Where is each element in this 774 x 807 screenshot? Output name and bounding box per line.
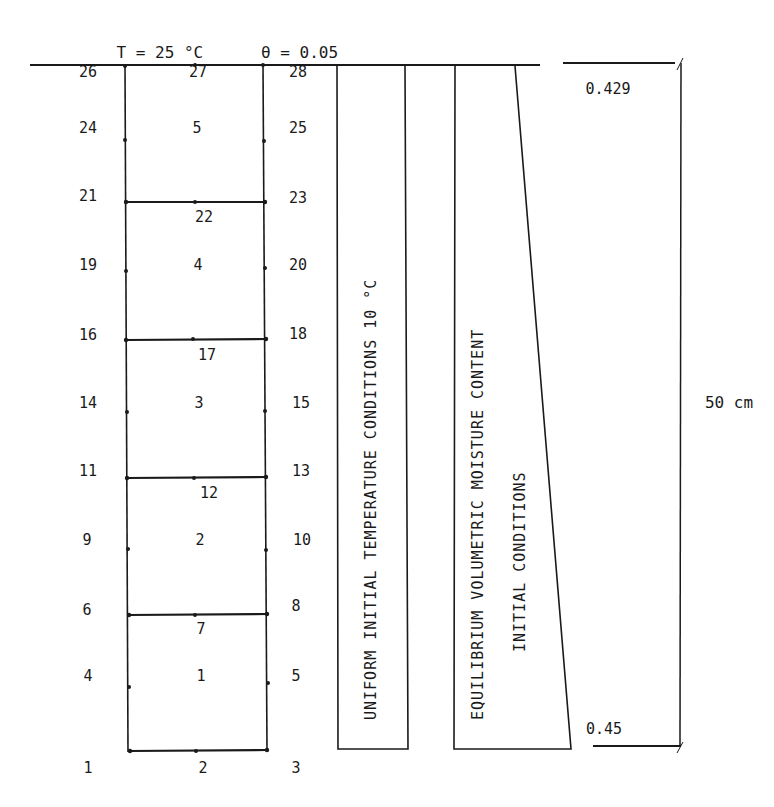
top-moisture-value: 0.429 [585, 82, 630, 97]
node-label: 3 [291, 761, 300, 776]
node-label: 25 [289, 121, 307, 136]
node-label: 10 [293, 533, 311, 548]
node-label: 21 [79, 189, 97, 204]
finite-element-diagram: T = 25 °C θ = 0.05 [0, 0, 774, 807]
node-label: 13 [292, 464, 310, 479]
element-label: 5 [192, 121, 201, 136]
bottom-moisture-value: 0.45 [586, 722, 622, 737]
mesh-left-edge [125, 65, 128, 752]
depth-dimension-label: 50 cm [705, 395, 753, 410]
element-label: 1 [196, 669, 205, 684]
node-label: 1 [83, 761, 92, 776]
node-label: 17 [198, 348, 216, 363]
node-label: 9 [82, 533, 91, 548]
element-label: 4 [193, 258, 202, 273]
node-label: 2 [198, 761, 207, 776]
node-label: 11 [79, 464, 97, 479]
node-label: 5 [291, 669, 300, 684]
node-label: 7 [196, 622, 205, 637]
node-label: 15 [292, 396, 310, 411]
node-label: 18 [289, 327, 307, 342]
moisture-condition-label: EQUILIBRIUM VOLUMETRIC MOISTURE CONTENT [469, 329, 487, 720]
node-label: 27 [189, 65, 207, 80]
moisture-initial-conditions-label: INITIAL CONDITIONS [511, 471, 529, 652]
temperature-condition-label: UNIFORM INITIAL TEMPERATURE CONDITIONS 1… [362, 279, 380, 720]
element-boundary [129, 750, 267, 751]
node-label: 16 [79, 328, 97, 343]
dimension-top-arrow [677, 58, 683, 70]
element-label: 3 [194, 396, 203, 411]
element-boundary [126, 339, 266, 340]
element-boundary [128, 614, 267, 615]
node-label: 20 [289, 258, 307, 273]
element-boundary [127, 477, 266, 478]
node-label: 4 [83, 669, 92, 684]
node-label: 22 [195, 210, 213, 225]
node-label: 14 [79, 396, 97, 411]
node-label: 19 [79, 258, 97, 273]
node-label: 12 [200, 486, 218, 501]
node-label: 26 [79, 65, 97, 80]
mesh-right-edge [263, 65, 267, 750]
diagram-lines [0, 0, 774, 807]
node-label: 24 [79, 121, 97, 136]
node-label: 28 [289, 65, 307, 80]
element-label: 2 [195, 533, 204, 548]
node-label: 6 [82, 603, 91, 618]
node-label: 8 [291, 599, 300, 614]
node-label: 23 [289, 191, 307, 206]
depth-dimension-line [680, 63, 681, 746]
